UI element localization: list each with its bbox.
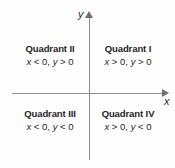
- x-axis-line: [12, 93, 164, 94]
- y-axis-label: y: [78, 8, 84, 20]
- quadrant-4-title: Quadrant IV: [90, 108, 166, 119]
- quadrant-4-condition: x > 0, y < 0: [90, 121, 166, 132]
- quadrant-1-title: Quadrant I: [90, 43, 166, 54]
- coordinate-plane-figure: x y Quadrant II x < 0, y > 0 Quadrant I …: [0, 0, 175, 168]
- quadrant-1-annotation: Quadrant I x > 0, y > 0: [90, 43, 166, 67]
- quadrant-2-annotation: Quadrant II x < 0, y > 0: [12, 43, 88, 67]
- quadrant-4-annotation: Quadrant IV x > 0, y < 0: [90, 108, 166, 132]
- quadrant-2-title: Quadrant II: [12, 43, 88, 54]
- x-axis-label: x: [164, 95, 170, 107]
- quadrant-3-title: Quadrant III: [12, 108, 88, 119]
- quadrant-3-condition: x < 0, y < 0: [12, 121, 88, 132]
- y-axis-arrowhead-icon: [85, 11, 93, 18]
- quadrant-1-condition: x > 0, y > 0: [90, 56, 166, 67]
- quadrant-3-annotation: Quadrant III x < 0, y < 0: [12, 108, 88, 132]
- y-axis-line: [89, 16, 90, 160]
- quadrant-2-condition: x < 0, y > 0: [12, 56, 88, 67]
